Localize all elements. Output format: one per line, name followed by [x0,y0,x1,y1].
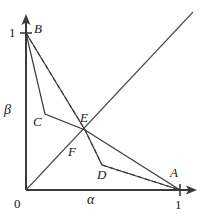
x-axis-tick-label-one: 1 [175,198,182,211]
curve-dashed-bed [26,33,102,165]
point-label-e: E [80,111,88,124]
y-axis-label-beta: β [4,103,11,117]
figure-canvas [0,0,209,223]
x-axis-label-alpha: α [87,193,94,207]
point-label-a: A [170,166,178,179]
y-axis-tick-label-one: 1 [9,26,16,39]
point-label-c: C [33,115,42,128]
point-label-f: F [68,145,76,158]
diagonal-line [26,12,193,190]
point-label-b: B [34,22,42,35]
origin-label: 0 [14,197,21,210]
point-label-d: D [97,168,106,181]
geometry-figure: 1 1 0 β α B C E F D A [0,0,209,223]
